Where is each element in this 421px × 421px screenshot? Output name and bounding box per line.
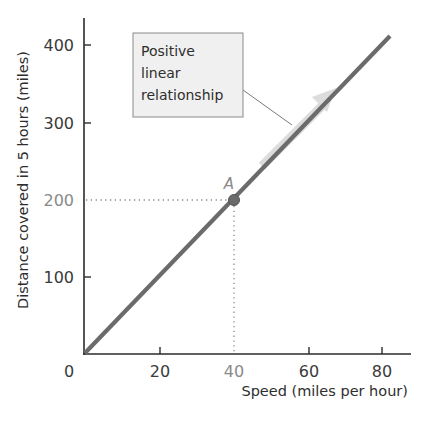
callout-line-3: relationship (141, 87, 223, 103)
x-axis-title: Speed (miles per hour) (241, 383, 408, 399)
y-tick-label-200: 200 (43, 191, 74, 210)
y-axis-title: Distance covered in 5 hours (miles) (15, 51, 31, 309)
y-tick-label-400: 400 (43, 36, 74, 55)
arrow-up-right-icon (262, 88, 336, 166)
x-tick-label-80: 80 (372, 362, 392, 381)
y-tick-label-300: 300 (43, 114, 74, 133)
callout-line-2: linear (141, 65, 181, 81)
x-tick-label-20: 20 (150, 362, 170, 381)
x-tick-label-60: 60 (299, 362, 319, 381)
point-a-label: A (223, 175, 234, 193)
x-tick-label-0: 0 (64, 362, 74, 381)
callout-line-1: Positive (141, 43, 195, 59)
callout-box: Positive linear relationship (133, 33, 243, 117)
chart: Distance covered in 5 hours (miles) 400 … (0, 0, 421, 421)
point-a (229, 195, 240, 206)
y-tick-label-100: 100 (43, 268, 74, 287)
x-tick-label-40: 40 (224, 362, 244, 381)
callout-leader (243, 90, 292, 125)
